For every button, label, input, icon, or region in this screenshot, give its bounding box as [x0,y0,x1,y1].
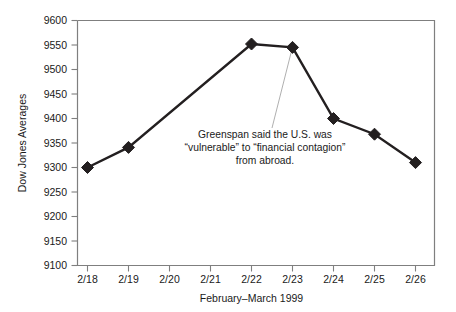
chart-figure: 9600 9550 9500 9450 9400 9350 9300 9250 … [0,0,456,312]
x-tick-label: 2/20 [159,273,180,285]
y-tick-label: 9200 [44,210,68,222]
y-tick-label: 9350 [44,137,68,149]
annotation-leader-line [272,49,292,128]
annotation-line-1: Greenspan said the U.S. was [198,129,332,140]
data-point-markers [82,38,422,174]
y-tick-label: 9150 [44,235,68,247]
x-tick-label: 2/21 [200,273,221,285]
x-tick-label: 2/23 [282,273,303,285]
x-tick-label: 2/26 [405,273,426,285]
y-tick-label: 9550 [44,39,68,51]
x-tick-label: 2/19 [118,273,139,285]
y-tick-label: 9100 [44,259,68,271]
y-tick-label: 9500 [44,63,68,75]
x-axis-ticks [88,266,416,272]
greenspan-annotation: Greenspan said the U.S. was “vulnerable”… [185,129,346,166]
x-tick-label: 2/22 [241,273,262,285]
y-tick-label: 9600 [44,14,68,26]
data-point-marker [287,41,299,53]
x-axis-title: February–March 1999 [200,292,303,304]
y-axis-tick-labels: 9600 9550 9500 9450 9400 9350 9300 9250 … [44,14,68,271]
y-tick-label: 9300 [44,161,68,173]
y-tick-label: 9450 [44,88,68,100]
annotation-line-3: from abroad. [236,155,294,166]
y-axis-title: Dow Jones Averages [16,94,28,192]
y-tick-label: 9250 [44,186,68,198]
y-axis-ticks [72,21,78,266]
data-point-marker [328,113,340,125]
x-tick-label: 2/25 [364,273,385,285]
annotation-line-2: “vulnerable” to “financial contagion” [185,142,346,153]
data-point-marker [82,162,94,174]
x-axis-tick-labels: 2/18 2/19 2/20 2/21 2/22 2/23 2/24 2/25 … [77,273,426,285]
y-tick-label: 9400 [44,112,68,124]
x-tick-label: 2/18 [77,273,98,285]
x-tick-label: 2/24 [323,273,344,285]
line-chart: 9600 9550 9500 9450 9400 9350 9300 9250 … [0,0,456,312]
